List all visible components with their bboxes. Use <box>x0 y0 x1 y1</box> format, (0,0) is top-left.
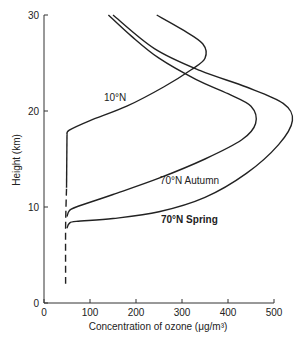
y-axis-label: Height (km) <box>11 134 22 186</box>
series-line-0 <box>67 15 206 135</box>
series-line-3 <box>66 188 67 284</box>
x-ticks: 0100200300400500 <box>41 299 283 318</box>
x-tick-label: 400 <box>220 307 237 318</box>
y-tick-label: 10 <box>28 202 40 213</box>
y-tick-label: 0 <box>33 298 39 309</box>
series-label-70n-autumn: 70°N Autumn <box>160 175 219 186</box>
y-tick-label: 20 <box>28 106 40 117</box>
x-axis-label: Concentration of ozone (μg/m³) <box>89 321 228 332</box>
series-label-70n-spring: 70°N Spring <box>161 214 218 225</box>
series-line-2 <box>67 15 293 228</box>
series-lines <box>66 15 293 284</box>
ozone-height-chart: 0102030 0100200300400500 10°N 70°N Autum… <box>0 0 306 338</box>
y-ticks: 0102030 <box>28 10 48 309</box>
series-label-10n: 10°N <box>104 92 126 103</box>
x-tick-label: 500 <box>266 307 283 318</box>
x-tick-label: 0 <box>41 307 47 318</box>
y-tick-label: 30 <box>28 10 40 21</box>
x-tick-label: 200 <box>128 307 145 318</box>
x-tick-label: 300 <box>174 307 191 318</box>
x-tick-label: 100 <box>82 307 99 318</box>
